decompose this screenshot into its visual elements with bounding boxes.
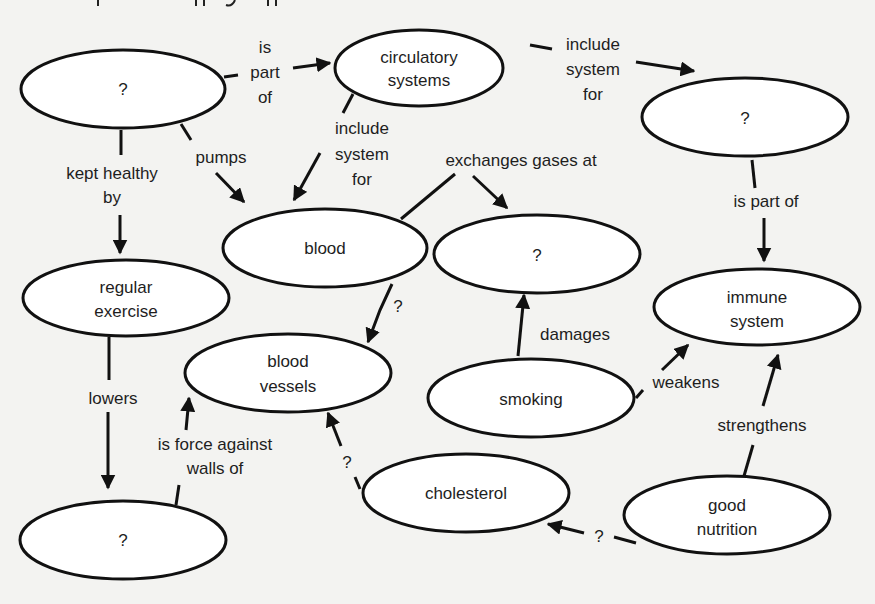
node-nutrition-label-2: nutrition: [697, 520, 757, 539]
node-exercise-label-2: exercise: [94, 302, 157, 321]
node-smoking-label: smoking: [499, 390, 562, 409]
link-label-include-lymph-2: system: [566, 60, 620, 79]
link-label-include-lymph-3: for: [583, 85, 603, 104]
node-circulatory-label-2: systems: [388, 71, 450, 90]
edge-smoking-immune: [662, 345, 688, 370]
link-label-exchanges-gases: exchanges gases at: [445, 151, 596, 170]
node-nutrition-label-1: good: [708, 496, 746, 515]
link-label-damages: damages: [540, 325, 610, 344]
node-cholesterol[interactable]: cholesterol: [363, 454, 569, 532]
link-label-nutrition-q: ?: [594, 527, 603, 546]
link-label-weakens: weakens: [651, 373, 719, 392]
edge-heart-blood: [216, 173, 244, 202]
node-blood-label: blood: [304, 239, 346, 258]
link-label-cholesterol-q: ?: [342, 453, 351, 472]
edge-smoking-lungs: [518, 295, 524, 356]
link-label-is-part-of-2: part: [250, 63, 280, 82]
edge-pressure-vessels-tail: [176, 485, 179, 505]
edge-pressure-vessels: [186, 398, 189, 430]
edge-nut-chol: [548, 524, 584, 533]
node-blood[interactable]: blood: [223, 209, 427, 287]
edge-nut-strengthens-tail: [744, 445, 753, 476]
node-lungs-unknown[interactable]: ?: [434, 215, 640, 293]
node-blood-vessels[interactable]: blood vessels: [185, 334, 391, 412]
node-lymphatic-label: ?: [740, 109, 749, 128]
link-label-include-blood-1: include: [335, 119, 389, 138]
edge-nut-chol-tail: [614, 537, 636, 543]
clipped-heading-fragment: [98, 0, 276, 6]
link-label-include-blood-3: for: [352, 170, 372, 189]
edge-heart-circulatory-tail: [224, 75, 238, 77]
link-label-is-part-of-3: of: [258, 88, 272, 107]
edge-blood-exchanges-tail: [401, 174, 455, 219]
link-label-kept-healthy-2: by: [103, 188, 121, 207]
edge-circ-lymph-tail: [530, 45, 552, 49]
link-label-strengthens: strengthens: [718, 416, 807, 435]
node-smoking[interactable]: smoking: [428, 359, 634, 437]
edge-circ-lymph: [636, 62, 694, 71]
link-label-force-1: is force against: [158, 435, 273, 454]
node-immune-label-2: system: [730, 312, 784, 331]
link-label-include-lymph-1: include: [566, 35, 620, 54]
link-label-force-2: walls of: [186, 459, 244, 478]
concept-map-canvas: ? circulatory systems ? blood ? immune s…: [0, 0, 875, 604]
edge-heart-blood-tail: [181, 124, 191, 140]
edge-chol-vessels: [328, 413, 341, 446]
edge-blood-lungs: [473, 176, 507, 208]
edge-lymph-immune-tail: [752, 160, 755, 188]
node-immune-system[interactable]: immune system: [654, 269, 860, 345]
node-regular-exercise[interactable]: regular exercise: [23, 260, 229, 336]
edge-circ-blood-tail: [343, 94, 353, 113]
node-exercise-label-1: regular: [100, 278, 153, 297]
node-immune-label-1: immune: [727, 288, 787, 307]
node-good-nutrition[interactable]: good nutrition: [624, 476, 830, 554]
node-heart-label: ?: [118, 80, 127, 99]
node-pressure-label: ?: [118, 531, 127, 550]
link-label-lowers: lowers: [88, 389, 137, 408]
edge-circ-blood: [294, 153, 320, 200]
edge-heart-circulatory: [293, 63, 330, 68]
node-circulatory-label-1: circulatory: [380, 48, 458, 67]
node-circulatory-systems[interactable]: circulatory systems: [335, 30, 503, 106]
node-heart[interactable]: ?: [21, 50, 225, 128]
edge-blood-vessels: [368, 284, 392, 342]
node-vessels-label-2: vessels: [260, 377, 317, 396]
link-label-blood-vessels-q: ?: [393, 297, 402, 316]
node-lungs-label: ?: [532, 246, 541, 265]
node-vessels-label-1: blood: [267, 352, 309, 371]
concept-map: ? circulatory systems ? blood ? immune s…: [0, 0, 875, 604]
node-lymphatic-unknown[interactable]: ?: [642, 78, 848, 156]
node-pressure-unknown[interactable]: ?: [20, 501, 226, 579]
link-label-is-part-of-1: is: [259, 38, 271, 57]
edge-smoking-weakens-tail: [636, 390, 643, 398]
link-label-pumps: pumps: [195, 148, 246, 167]
edge-chol-vessels-tail: [355, 477, 360, 489]
link-label-kept-healthy-1: kept healthy: [66, 164, 158, 183]
link-label-is-part-of-immune: is part of: [733, 192, 798, 211]
node-cholesterol-label: cholesterol: [425, 484, 507, 503]
link-label-include-blood-2: system: [335, 145, 389, 164]
edge-nut-immune: [763, 355, 778, 406]
